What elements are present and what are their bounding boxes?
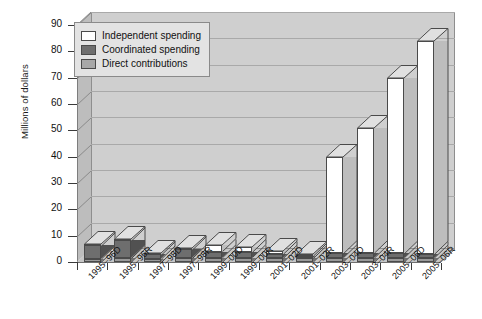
legend-item: Direct contributions: [81, 57, 201, 70]
y-axis-label: 30: [18, 176, 62, 187]
bar-segment-front: [326, 157, 343, 254]
bar-segment: [84, 244, 101, 246]
y-axis-label: 0: [18, 255, 62, 266]
bar-segment-top: [387, 65, 418, 78]
legend-label-independent-spending: Independent spending: [102, 30, 201, 41]
y-axis-label: 60: [18, 97, 62, 108]
bar-segment-top: [357, 115, 388, 128]
x-axis-tick: [77, 263, 78, 270]
legend-swatch-coordinated-spending: [81, 45, 96, 55]
bar-segment-front: [84, 244, 101, 246]
plot-area: 0102030405060708090 1995–96D1995–96R1997…: [0, 0, 482, 319]
bar-segment-front: [357, 128, 374, 253]
bar-segment-side: [374, 128, 388, 253]
bar-segment: [387, 78, 404, 254]
bar-segment-side: [404, 78, 418, 254]
bar-segment-front: [114, 239, 131, 241]
legend-item: Independent spending: [81, 29, 201, 42]
bar-segment-side: [434, 41, 448, 254]
legend-swatch-independent-spending: [81, 31, 96, 41]
chart-legend: Independent spending Coordinated spendin…: [74, 22, 210, 77]
legend-swatch-direct-contributions: [81, 59, 96, 69]
y-axis-label: 40: [18, 150, 62, 161]
bar-segment: [84, 245, 101, 259]
bar-chart: Millions of dollars 0102030405060708090 …: [0, 0, 482, 319]
y-axis-label: 90: [18, 18, 62, 29]
y-axis-label: 20: [18, 202, 62, 213]
y-axis-label: 70: [18, 71, 62, 82]
bar-segment-side: [131, 239, 145, 241]
y-axis-label: 50: [18, 123, 62, 134]
bar-segment-top: [114, 226, 145, 239]
bar-segment-front: [387, 78, 404, 254]
bar-segment-top: [417, 28, 448, 41]
bar-segment-side: [343, 157, 357, 254]
legend-label-direct-contributions: Direct contributions: [102, 58, 188, 69]
bar-segment-front: [84, 245, 101, 259]
y-axis-label: 10: [18, 229, 62, 240]
bar-segment-front: [417, 41, 434, 254]
bar-segment: [417, 41, 434, 254]
legend-label-coordinated-spending: Coordinated spending: [102, 44, 200, 55]
bar-segment: [114, 239, 131, 241]
y-axis-label: 80: [18, 44, 62, 55]
bar-segment-top: [84, 231, 115, 244]
legend-item: Coordinated spending: [81, 43, 201, 56]
bar-segment: [326, 157, 343, 254]
bar-segment: [357, 128, 374, 253]
bar-segment-top: [326, 144, 357, 157]
bar-segment-top: [205, 232, 236, 245]
